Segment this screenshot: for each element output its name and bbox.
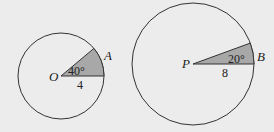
angle-label-p: 20° [228,52,245,66]
circle-sector-diagram: O A 40° 4 P B 20° 8 [0,0,274,132]
center-label-p: P [181,56,190,71]
circle-p-figure: P B 20° 8 [132,3,265,125]
point-label-a: A [103,48,112,63]
center-label-o: O [49,69,59,84]
sector-p [193,43,254,64]
radius-label-o: 4 [77,78,83,92]
circle-o-figure: O A 40° 4 [18,33,112,119]
angle-label-o: 40° [68,64,85,78]
radius-label-p: 8 [222,66,228,80]
point-label-b: B [257,49,265,64]
